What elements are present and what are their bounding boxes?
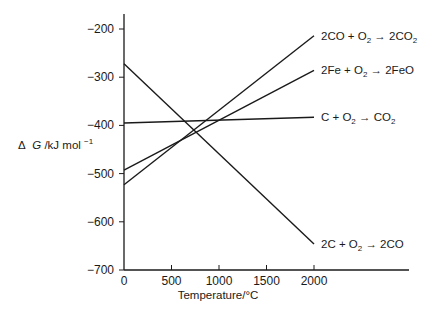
series-line xyxy=(124,64,314,244)
series-label: 2CO + O2 → 2CO2 xyxy=(321,30,418,45)
y-tick-label: −300 xyxy=(87,70,114,84)
series-label: 2C + O2 → 2CO xyxy=(321,238,404,253)
y-tick-label: −600 xyxy=(87,215,114,229)
y-title-delta: Δ xyxy=(18,139,26,151)
series-label: C + O2 → CO2 xyxy=(321,111,396,126)
x-tick-label: 500 xyxy=(161,274,181,288)
y-tick-label: −200 xyxy=(87,22,114,36)
series-labels: 2CO + O2 → 2CO22Fe + O2 → 2FeOC + O2 → C… xyxy=(321,30,418,253)
series-line xyxy=(124,117,314,123)
y-tick-label: −700 xyxy=(87,263,114,277)
x-tick-label: 1000 xyxy=(206,274,233,288)
y-tick-label: −500 xyxy=(87,167,114,181)
x-tick-label: 1500 xyxy=(253,274,280,288)
ellingham-chart: −200−300−400−500−600−700 050010001500200… xyxy=(0,0,437,316)
y-ticks: −200−300−400−500−600−700 xyxy=(87,22,124,277)
y-axis-title: Δ G /kJ mol −1 xyxy=(18,137,94,151)
y-title-unit: /kJ mol xyxy=(44,139,80,151)
series-lines xyxy=(124,36,314,244)
x-axis-title: Temperature/°C xyxy=(178,289,259,301)
x-ticks: 0500100015002000 xyxy=(121,265,328,288)
x-tick-label: 0 xyxy=(121,274,128,288)
x-tick-label: 2000 xyxy=(301,274,328,288)
series-line xyxy=(124,36,314,185)
y-title-exp: −1 xyxy=(84,137,94,146)
y-tick-label: −400 xyxy=(87,118,114,132)
series-label: 2Fe + O2 → 2FeO xyxy=(321,64,414,79)
y-title-g: G xyxy=(32,139,41,151)
